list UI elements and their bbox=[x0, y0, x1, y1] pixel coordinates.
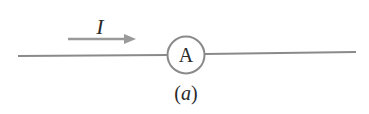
ammeter-icon: A bbox=[168, 37, 205, 74]
circuit-diagram: I A (a) bbox=[0, 0, 369, 114]
ammeter-label: A bbox=[179, 44, 194, 66]
wire-left bbox=[18, 55, 167, 56]
figure-caption: (a) bbox=[174, 82, 197, 105]
wire-right bbox=[205, 52, 356, 54]
current-label: I bbox=[95, 14, 105, 39]
circuit-svg: I A (a) bbox=[0, 0, 369, 114]
